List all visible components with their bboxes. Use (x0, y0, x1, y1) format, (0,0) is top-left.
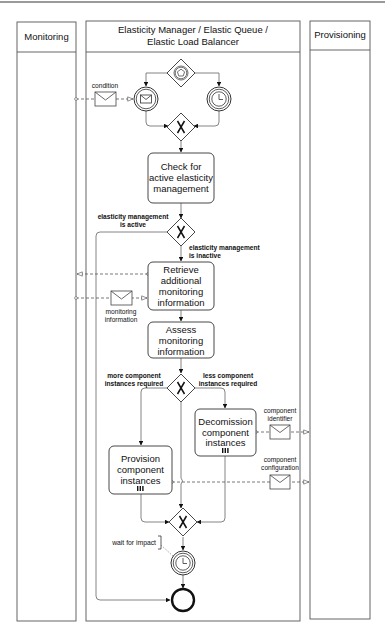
svg-text:Provision: Provision (121, 453, 160, 464)
label-more-2: instances required (105, 380, 164, 388)
clock-icon (176, 556, 190, 570)
task-provision-instances: Provision component instances (109, 446, 172, 494)
svg-text:monitoring: monitoring (159, 335, 203, 346)
svg-text:component: component (117, 464, 164, 475)
label-more-1: more component (107, 372, 161, 380)
lane-monitoring: Monitoring (17, 22, 76, 621)
svg-text:instances: instances (120, 475, 160, 486)
message-catch-event (134, 87, 158, 111)
svg-text:Decomission: Decomission (198, 416, 252, 427)
svg-text:configuration: configuration (261, 464, 299, 472)
svg-text:instances: instances (205, 437, 245, 448)
label-less-1: less component (203, 372, 254, 380)
lane-title-elastic-line2: Elastic Load Balancer (147, 36, 239, 47)
svg-text:component: component (264, 407, 297, 415)
svg-text:Check for: Check for (161, 161, 202, 172)
svg-text:Assess: Assess (166, 324, 197, 335)
svg-text:information: information (105, 316, 138, 323)
lane-provisioning: Provisioning (310, 21, 370, 619)
label-active-1: elasticity management (98, 213, 170, 221)
envelope-icon (141, 95, 152, 103)
svg-text:information: information (158, 346, 205, 357)
svg-text:active elasticity: active elasticity (149, 172, 213, 183)
task-check-elasticity: Check for active elasticity management (148, 153, 214, 203)
label-less-2: instances required (199, 380, 258, 388)
task-decommission-instances: Decomission component instances (195, 409, 256, 456)
label-inactive-1: elasticity management (189, 244, 261, 252)
svg-text:information: information (158, 297, 205, 308)
multi-instance-icon (137, 486, 144, 491)
annotation-text: wait for impact (111, 539, 156, 547)
svg-text:additional: additional (161, 275, 202, 286)
svg-text:identifier: identifier (268, 415, 294, 422)
svg-text:monitoring: monitoring (106, 308, 137, 316)
task-assess-monitoring: Assess monitoring information (148, 322, 214, 358)
bpmn-diagram: Monitoring Elasticity Manager / Elastic … (0, 0, 385, 637)
svg-text:management: management (153, 183, 209, 194)
message-condition: condition (92, 82, 119, 106)
end-event (172, 589, 194, 611)
timer-catch-event (207, 87, 231, 111)
label-inactive-2: is inactive (189, 252, 221, 259)
message-label-condition: condition (92, 82, 119, 89)
lane-title-elastic-line1: Elasticity Manager / Elastic Queue / (118, 24, 268, 35)
multi-instance-icon (222, 448, 229, 453)
timer-wait-event (171, 551, 195, 575)
svg-text:monitoring: monitoring (159, 286, 203, 297)
lane-title-monitoring: Monitoring (24, 31, 68, 42)
task-retrieve-monitoring: Retrieve additional monitoring informati… (148, 262, 214, 310)
svg-text:component: component (264, 456, 297, 464)
lane-title-provisioning: Provisioning (314, 29, 366, 40)
label-active-2: is active (120, 221, 146, 228)
svg-text:Retrieve: Retrieve (163, 264, 198, 275)
clock-icon (212, 92, 226, 106)
